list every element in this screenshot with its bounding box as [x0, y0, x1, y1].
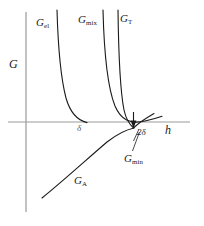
delta-label: δ [77, 124, 81, 133]
curve-label-g-el: Gel [36, 17, 49, 28]
y-axis-label: G [9, 58, 18, 70]
curve-label-g-el-sub: el [44, 22, 49, 29]
curve-label-g-a-base: G [74, 174, 82, 186]
curve-g-a [42, 128, 134, 198]
g-min-label: Gmin [124, 153, 143, 164]
curve-g-el [57, 10, 87, 123]
g-min-label-sub: min [132, 158, 143, 165]
curve-g-t [118, 10, 154, 128]
curve-label-g-a-sub: A [82, 180, 87, 187]
curve-label-g-t: GT [120, 13, 132, 24]
axes-group [8, 12, 190, 212]
curves-group [42, 10, 162, 198]
curve-label-g-mix: Gmix [78, 14, 97, 25]
two-delta-label: 2δ [137, 128, 146, 137]
curve-g-mix [103, 10, 162, 122]
curve-label-g-t-base: G [120, 12, 128, 24]
curve-label-g-mix-sub: mix [86, 19, 97, 26]
curve-label-g-el-base: G [36, 16, 44, 28]
diagram-canvas [0, 0, 204, 226]
curve-label-g-t-sub: T [128, 18, 132, 25]
x-axis-label: h [165, 124, 171, 136]
energy-vs-separation-diagram: Gel Gmix GT GA G h δ 2δ Gmin [0, 0, 204, 226]
g-min-depth-arrow-head [131, 121, 137, 129]
g-min-label-base: G [124, 152, 132, 164]
curve-label-g-a: GA [74, 175, 87, 186]
curve-label-g-mix-base: G [78, 13, 86, 25]
